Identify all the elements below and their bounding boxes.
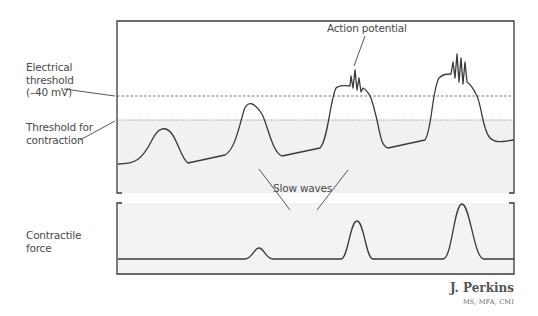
contractile-force-label: Contractile force: [26, 229, 81, 254]
electrical-threshold-label: Electrical threshold (–40 mV): [26, 61, 74, 99]
contraction-threshold-label: Threshold for contraction: [26, 121, 93, 146]
artist-credentials: MS, MFA, CMI: [463, 298, 514, 306]
lower-panel-background: [117, 203, 514, 274]
smooth-muscle-diagram: [0, 0, 538, 316]
action-potential-label: Action potential: [327, 22, 407, 35]
artist-signature: J. Perkins: [450, 281, 514, 295]
slow-waves-label: Slow waves: [273, 182, 332, 195]
